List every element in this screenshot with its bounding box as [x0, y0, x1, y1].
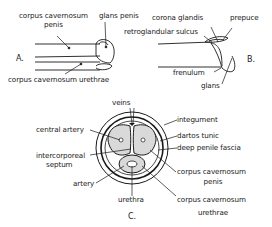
part-label-a: A. — [16, 54, 24, 63]
label-retroglandular-sulcus: retroglandular sulcus — [124, 28, 198, 36]
label-artery: artery — [73, 180, 94, 188]
label-glans: glans — [201, 82, 220, 90]
label-prepuce: prepuce — [230, 14, 259, 22]
label-corpus-cavernosum-urethrae-c: corpus cavernosum — [177, 196, 246, 204]
label-urethrae-c: urethrae — [177, 209, 249, 217]
label-veins: veins — [112, 99, 130, 107]
panel-c-drawing — [90, 108, 177, 196]
label-glans-penis: glans penis — [99, 12, 139, 20]
label-intercorporeal: intercorporeal — [36, 152, 85, 160]
label-dartos-tunic: dartos tunic — [177, 132, 219, 140]
label-septum: septum — [46, 161, 73, 169]
label-frenulum: frenulum — [173, 69, 205, 77]
label-penis-a: penis — [44, 21, 63, 29]
label-corona-glandis: corona glandis — [152, 14, 203, 22]
part-label-b: B. — [247, 55, 255, 64]
label-integument: integument — [177, 116, 218, 124]
label-corpus-cavernosum-urethrae-a: corpus cavernosum urethrae — [8, 76, 109, 84]
label-central-artery: central artery — [36, 126, 84, 134]
label-penis-c: penis — [177, 178, 249, 186]
part-label-c: C. — [128, 212, 136, 221]
panel-a-drawing — [35, 22, 114, 74]
label-urethra: urethra — [118, 196, 144, 204]
label-corpus-cavernosum-penis-a: corpus cavernosum — [19, 12, 88, 20]
label-deep-penile-fascia: deep penile fascia — [177, 144, 241, 152]
label-corpus-cavernosum-penis-c: corpus cavernosum — [177, 168, 246, 176]
anatomy-diagram: corpus cavernosum penis glans penis A. c… — [0, 0, 272, 227]
